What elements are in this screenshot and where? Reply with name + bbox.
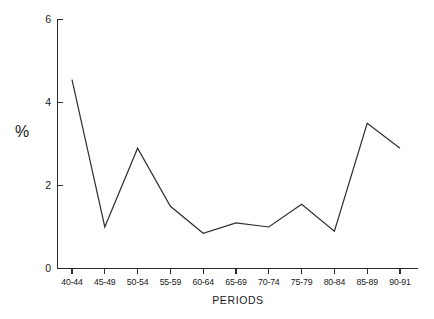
y-tick-label: 0 (45, 262, 51, 274)
y-tick-label: 6 (45, 13, 51, 25)
x-axis-tick-labels: 40-4445-4950-5455-5960-6465-6970-7475-79… (61, 277, 411, 287)
y-tick-label: 4 (45, 96, 51, 108)
x-tick-label: 60-64 (192, 277, 214, 287)
x-tick-label: 50-54 (127, 277, 149, 287)
x-tick-label: 75-79 (291, 277, 313, 287)
y-axis-title: % (15, 123, 29, 140)
chart-canvas: 0246 40-4445-4950-5455-5960-6465-6970-74… (0, 0, 434, 319)
x-tick-label: 90-91 (389, 277, 411, 287)
x-tick-label: 55-59 (160, 277, 182, 287)
line-chart-figure: 0246 40-4445-4950-5455-5960-6465-6970-74… (0, 0, 434, 319)
chart-background (0, 0, 434, 319)
x-tick-label: 65-69 (225, 277, 247, 287)
x-tick-label: 85-89 (356, 277, 378, 287)
y-tick-label: 2 (45, 179, 51, 191)
x-tick-label: 80-84 (324, 277, 346, 287)
x-tick-label: 40-44 (61, 277, 83, 287)
x-tick-label: 45-49 (94, 277, 116, 287)
x-axis-title: PERIODS (212, 294, 263, 306)
x-tick-label: 70-74 (258, 277, 280, 287)
